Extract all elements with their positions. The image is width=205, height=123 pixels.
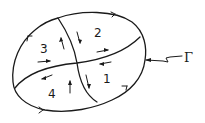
boundary-arrow-bottom-icon: [39, 107, 43, 113]
boundary-pointer-arrowhead-icon: [145, 58, 151, 62]
arrow-right-region-2-head-icon: [104, 48, 109, 52]
boundary-label-gamma: Γ: [184, 50, 193, 65]
arrow-right-region-3-head-icon: [46, 59, 51, 63]
region-label-2: 2: [94, 26, 102, 40]
boundary-arrow-right-icon: [122, 86, 127, 90]
region-label-1: 1: [103, 72, 111, 86]
arrow-down-region-1-head-icon: [87, 84, 91, 89]
arrow-left-region-1-head-icon: [99, 62, 104, 66]
boundary-pointer-squiggle: [146, 56, 182, 62]
region-label-3: 3: [40, 42, 48, 56]
contour-diagram: 2 3 1 4 Γ: [0, 0, 205, 123]
arrow-down-region-2-head-icon: [78, 39, 82, 44]
region-label-4: 4: [48, 87, 56, 101]
arrow-up-region-4-head-icon: [68, 80, 72, 85]
boundary-arrow-left-icon: [27, 36, 32, 41]
horizontal-divider-curve: [15, 37, 140, 88]
outer-boundary-curve: [13, 12, 146, 111]
